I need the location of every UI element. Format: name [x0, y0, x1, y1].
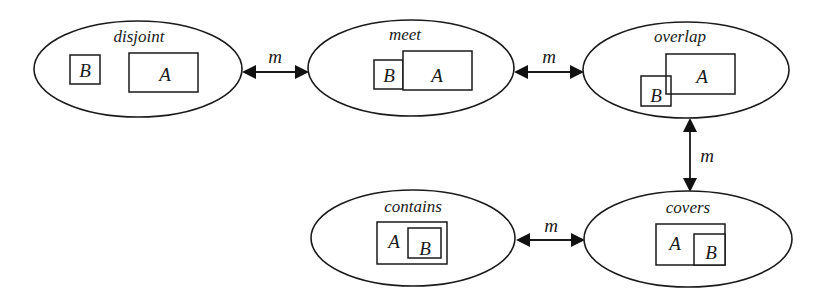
transition-label: m	[544, 215, 558, 236]
arrowhead-right-icon	[570, 65, 584, 79]
arrowhead-left-icon	[514, 65, 528, 79]
transition-meet-overlap: m	[514, 46, 584, 79]
region-B: B	[408, 228, 441, 259]
arrowhead-up-icon	[683, 118, 697, 132]
region-label: B	[79, 60, 91, 81]
arrowhead-down-icon	[683, 178, 697, 192]
transition-overlap-covers: m	[683, 118, 714, 192]
region-A: A	[403, 51, 472, 90]
region-label: B	[650, 85, 662, 106]
region-label: A	[386, 231, 400, 252]
transition-label: m	[268, 46, 282, 67]
arrowhead-left-icon	[242, 65, 256, 79]
states-layer: disjointBAmeetBAoverlapABcoversABcontain…	[34, 20, 792, 287]
state-title: overlap	[654, 27, 706, 46]
region-B: B	[694, 234, 725, 265]
state-disjoint: disjointBA	[34, 21, 242, 117]
arrowhead-left-icon	[516, 233, 530, 247]
region-label: B	[419, 238, 431, 259]
region-label: B	[383, 65, 395, 86]
transition-label: m	[700, 145, 714, 166]
region-A: A	[129, 53, 198, 92]
region-label: A	[667, 233, 681, 254]
state-contains: containsAB	[311, 190, 515, 286]
state-title: meet	[389, 25, 422, 44]
transition-contains-covers: m	[516, 215, 585, 247]
region-B: B	[70, 55, 100, 84]
transition-disjoint-meet: m	[242, 46, 309, 79]
region-label: A	[157, 64, 171, 85]
state-title: covers	[666, 198, 711, 217]
transition-label: m	[542, 46, 556, 67]
region-label: B	[705, 242, 717, 263]
state-overlap: overlapAB	[583, 22, 789, 118]
arrowhead-right-icon	[295, 65, 309, 79]
state-title: contains	[384, 197, 442, 216]
region-label: A	[429, 65, 443, 86]
state-title: disjoint	[113, 27, 165, 46]
state-meet: meetBA	[308, 20, 514, 116]
region-B: B	[374, 60, 403, 89]
region-A: A	[666, 54, 735, 94]
state-covers: coversAB	[584, 191, 792, 287]
arrowhead-right-icon	[571, 233, 585, 247]
topological-relations-diagram: mmmm disjointBAmeetBAoverlapABcoversABco…	[0, 0, 824, 299]
region-label: A	[694, 66, 708, 87]
